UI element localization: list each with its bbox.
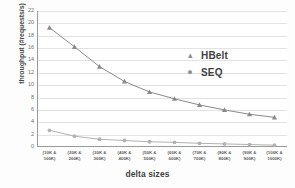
chart-legend: ▴ HBelt ● SEQ bbox=[182, 47, 268, 81]
y-axis-tick-label: 8 bbox=[4, 95, 34, 101]
data-point-marker bbox=[273, 143, 277, 147]
circle-marker-icon: ● bbox=[182, 68, 198, 77]
y-axis-tick-label: 10 bbox=[4, 82, 34, 88]
data-point-marker bbox=[223, 142, 227, 146]
y-axis-tick-label: 6 bbox=[4, 107, 34, 113]
triangle-marker-icon: ▴ bbox=[182, 51, 198, 60]
y-axis-tick-label: 18 bbox=[4, 33, 34, 39]
y-axis-tick-label: 0 bbox=[4, 144, 34, 150]
data-point-marker bbox=[48, 128, 52, 132]
y-axis-tick-label: 22 bbox=[4, 8, 34, 14]
series-line-seq bbox=[50, 130, 275, 145]
data-point-marker bbox=[248, 143, 252, 147]
data-point-marker bbox=[98, 137, 102, 141]
data-point-marker bbox=[123, 139, 127, 143]
legend-item-seq[interactable]: ● SEQ bbox=[182, 64, 268, 81]
x-axis-tick-label: (100K &1000K) bbox=[258, 150, 292, 162]
y-axis-tick-label: 14 bbox=[4, 58, 34, 64]
data-point-marker bbox=[148, 140, 152, 144]
chart-container: throughput (#requests/s) 024681012141618… bbox=[0, 0, 295, 188]
data-point-marker bbox=[198, 141, 202, 145]
data-point-marker bbox=[73, 134, 77, 138]
y-axis-tick-label: 2 bbox=[4, 132, 34, 138]
y-axis-tick-labels: 0246810121416182022 bbox=[0, 11, 37, 147]
legend-label-hbelt: HBelt bbox=[198, 50, 228, 61]
x-axis-tick-labels: (10K &100K)(20K &200K)(30K &300K)(40K &4… bbox=[37, 150, 287, 168]
data-point-marker bbox=[173, 140, 177, 144]
y-axis-tick-label: 16 bbox=[4, 45, 34, 51]
y-axis-tick-label: 12 bbox=[4, 70, 34, 76]
y-axis-tick-label: 4 bbox=[4, 120, 34, 126]
legend-item-hbelt[interactable]: ▴ HBelt bbox=[182, 47, 268, 64]
y-axis-tick-label: 20 bbox=[4, 21, 34, 27]
legend-label-seq: SEQ bbox=[198, 67, 223, 78]
x-axis-title: delta sizes bbox=[0, 169, 295, 179]
data-point-marker bbox=[122, 79, 127, 84]
data-point-marker bbox=[47, 25, 52, 30]
